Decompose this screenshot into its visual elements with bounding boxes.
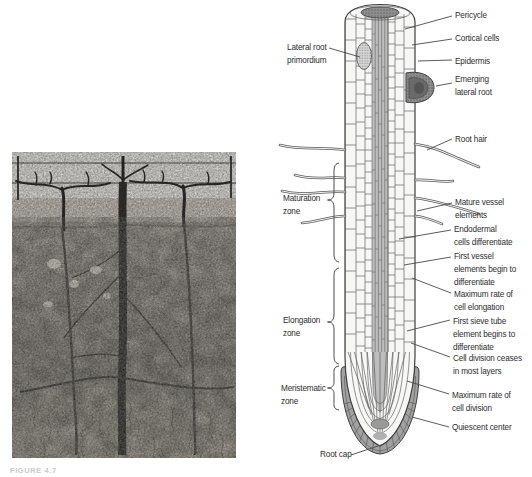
label-max-elongation: Maximum rate of cell elongation: [454, 288, 513, 314]
figure-caption: FIGURE 4.7: [10, 466, 57, 475]
label-endodermal: Endodermal cells differentiate: [454, 223, 512, 249]
vineyard-photo: [12, 152, 236, 458]
label-lateral-root-primordium: Lateral root primordium: [287, 41, 327, 67]
label-elongation-zone: Elongation zone: [283, 314, 320, 340]
label-cortical-cells: Cortical cells: [455, 32, 499, 45]
label-root-cap: Root cap: [320, 448, 352, 461]
label-epidermis: Epidermis: [455, 55, 490, 68]
label-max-cell-division: Maximum rate of cell division: [452, 389, 511, 415]
label-maturation-zone: Maturation zone: [283, 192, 320, 218]
label-first-vessel: First vessel elements begin to different…: [454, 250, 516, 289]
zone-braces: [328, 163, 340, 410]
label-pericycle: Pericycle: [455, 9, 487, 22]
textbook-figure-root-anatomy: Pericycle Cortical cells Epidermis Emerg…: [0, 0, 532, 477]
label-cell-division-ceases: Cell division ceases in most layers: [453, 352, 522, 378]
label-root-hair: Root hair: [455, 133, 487, 146]
label-quiescent-center: Quiescent center: [452, 421, 512, 434]
quiescent-center-shape: [371, 419, 389, 429]
label-mature-vessel: Mature vessel elements: [455, 196, 504, 222]
label-first-sieve-tube: First sieve tube element begins to diffe…: [453, 315, 515, 354]
lateral-root-primordium-shape: [357, 43, 372, 70]
emerging-lateral-root-shape: [406, 72, 434, 102]
columella: [373, 432, 387, 440]
label-meristematic-zone: Meristematic zone: [281, 382, 326, 408]
label-emerging-lateral-root: Emerging lateral root: [455, 73, 492, 99]
